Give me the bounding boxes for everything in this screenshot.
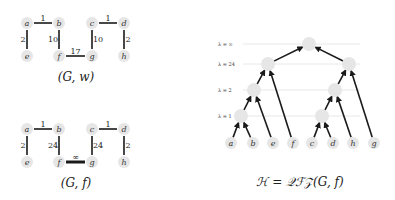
tree-leaf-label: g <box>371 139 376 148</box>
tree-internal-node-R2 <box>328 83 342 97</box>
graph-w-edge-weight: 2 <box>20 35 25 44</box>
graph-f-edge-weight: 24 <box>48 141 58 150</box>
tree-leaf-label: e <box>271 139 276 148</box>
graph-w-edge-weight: 2 <box>125 35 130 44</box>
tree-edge-L1-L2 <box>244 96 251 110</box>
tree-edge-e-L2 <box>256 97 271 138</box>
tree-leaf-label: b <box>250 139 255 148</box>
graph-w-node-label: e <box>25 52 30 61</box>
graph-f-edge-weight: 1 <box>105 120 110 129</box>
tree-edge-L2-L24 <box>257 70 265 85</box>
graph-f-node-label: b <box>56 125 61 134</box>
graph-f-edge-weight: 2 <box>125 141 130 150</box>
graph-f-caption: (G, f) <box>61 176 92 190</box>
graph-f-node-label: d <box>121 125 126 134</box>
tree-internal-node-R1 <box>315 109 329 123</box>
graph-w-node-label: c <box>90 19 95 28</box>
graph-f-edge-weight: ∞ <box>72 153 79 162</box>
tree-edge-R1-R2 <box>325 96 332 110</box>
graph-f-node-label: c <box>90 125 95 134</box>
diagram-canvas: 1121010217abcdefgh (G, w) 11224242∞abcde… <box>0 0 395 200</box>
graph-f: 11224242∞abcdefgh <box>20 120 130 169</box>
tree-edge-f-L24 <box>270 71 291 138</box>
graph-w-edge-weight: 10 <box>93 35 103 44</box>
tree-edge-d-R1 <box>325 122 331 137</box>
tree-edge-h-R2 <box>337 97 351 138</box>
tree-internal-node-L1 <box>234 109 248 123</box>
graph-w: 1121010217abcdefgh <box>20 14 130 63</box>
graph-w-edge-weight: 17 <box>70 47 80 56</box>
tree-leaf-label: d <box>330 139 335 148</box>
hierarchy-caption: ℋ = 𝒬ℱ𝒵(G, f) <box>256 175 344 189</box>
tree-internal-node-L24 <box>261 57 275 71</box>
level-label: λ = 24 <box>218 61 235 67</box>
level-label: λ = ∞ <box>218 41 233 47</box>
graph-w-edge-weight: 1 <box>40 14 45 23</box>
level-label: λ = 1 <box>218 113 232 119</box>
tree-internal-node-root <box>302 37 316 51</box>
tree-internal-node-L2 <box>247 83 261 97</box>
tree-edge-b-L1 <box>244 122 251 137</box>
graph-f-edge-weight: 24 <box>93 141 103 150</box>
graph-w-node-label: d <box>121 19 126 28</box>
tree-edge-g-R24 <box>351 71 372 138</box>
graph-w-edge-weight: 10 <box>48 35 58 44</box>
graph-f-node-label: g <box>89 158 94 167</box>
graph-f-node-label: e <box>25 158 30 167</box>
hierarchy-tree: λ = ∞λ = 24λ = 2λ = 1abefcdhg <box>218 37 380 149</box>
level-label: λ = 2 <box>218 87 232 93</box>
graph-w-node-label: h <box>121 52 126 61</box>
tree-leaf-label: c <box>310 139 315 148</box>
tree-internal-node-R24 <box>342 57 356 71</box>
tree-leaf-label: a <box>229 139 234 148</box>
graph-f-edge-weight: 1 <box>40 120 45 129</box>
tree-edge-R2-R24 <box>338 70 346 85</box>
graph-w-node-label: b <box>56 19 61 28</box>
graph-w-node-label: a <box>25 19 30 28</box>
tree-leaf-label: h <box>350 139 355 148</box>
graph-w-caption: (G, w) <box>58 70 95 84</box>
tree-edge-L24-root <box>273 47 302 61</box>
graph-w-node-label: g <box>89 52 94 61</box>
tree-edge-c-R1 <box>314 123 319 138</box>
tree-edge-R24-root <box>315 47 343 61</box>
tree-edge-a-L1 <box>233 123 238 138</box>
graph-f-node-label: a <box>25 125 30 134</box>
graph-f-edge-weight: 2 <box>20 141 25 150</box>
graph-w-edge-weight: 1 <box>105 14 110 23</box>
graph-f-node-label: h <box>121 158 126 167</box>
